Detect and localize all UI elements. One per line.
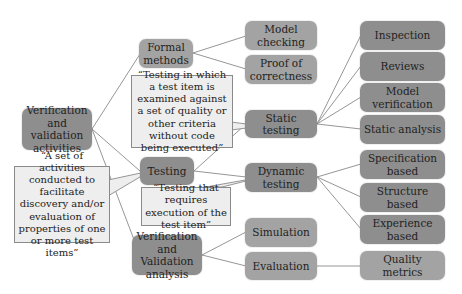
node-model-verification: Model verification bbox=[360, 83, 445, 112]
node-dynamic-testing: Dynamic testing bbox=[245, 163, 317, 192]
node-specification-based: Specification based bbox=[360, 150, 445, 179]
node-label: Proof of correctness bbox=[248, 57, 314, 82]
root-node-vv-activities: Verification and validation activities bbox=[22, 108, 92, 150]
callout-static-testing-definition: “Testing in which a test item is examine… bbox=[131, 75, 233, 148]
node-label: Model checking bbox=[248, 23, 314, 48]
node-label: Static analysis bbox=[364, 123, 441, 136]
callout-dynamic-testing-definition: “Testing that requires execution of the … bbox=[141, 187, 231, 226]
node-reviews: Reviews bbox=[360, 52, 445, 81]
node-label: Reviews bbox=[381, 60, 425, 73]
node-testing: Testing bbox=[140, 157, 194, 185]
callout-text: “A set of activities conducted to facili… bbox=[18, 150, 106, 260]
node-label: Experience based bbox=[363, 217, 442, 242]
node-label: Dynamic testing bbox=[248, 165, 314, 190]
node-label: Inspection bbox=[375, 29, 431, 42]
node-static-analysis: Static analysis bbox=[360, 115, 445, 144]
node-proof-of-correctness: Proof of correctness bbox=[245, 55, 317, 84]
node-vv-analysis: Verification and Validation analysis bbox=[132, 235, 202, 275]
node-label: Testing bbox=[148, 165, 187, 178]
callout-text: “Testing that requires execution of the … bbox=[145, 182, 227, 231]
callout-testing-definition: “A set of activities conducted to facili… bbox=[14, 166, 110, 243]
node-structure-based: Structure based bbox=[360, 183, 445, 212]
node-inspection: Inspection bbox=[360, 21, 445, 50]
node-static-testing: Static testing bbox=[245, 110, 317, 138]
node-label: Structure based bbox=[363, 185, 442, 210]
callout-text: “Testing in which a test item is examine… bbox=[135, 69, 229, 154]
node-label: Static testing bbox=[248, 112, 314, 137]
node-label: Model verification bbox=[363, 85, 442, 110]
node-label: Formal methods bbox=[142, 41, 190, 66]
node-label: Quality metrics bbox=[363, 253, 442, 278]
node-formal-methods: Formal methods bbox=[139, 39, 193, 68]
node-label: Specification based bbox=[363, 152, 442, 177]
vv-activities-diagram: Verification and validation activities F… bbox=[0, 0, 462, 294]
node-label: Verification and Validation analysis bbox=[135, 230, 199, 280]
node-label: Simulation bbox=[252, 226, 310, 239]
node-quality-metrics: Quality metrics bbox=[360, 251, 445, 280]
node-label: Evaluation bbox=[253, 260, 310, 273]
node-experience-based: Experience based bbox=[360, 215, 445, 244]
root-node-label: Verification and validation activities bbox=[25, 104, 89, 154]
node-evaluation: Evaluation bbox=[245, 252, 317, 280]
node-simulation: Simulation bbox=[245, 218, 317, 247]
node-model-checking: Model checking bbox=[245, 21, 317, 50]
